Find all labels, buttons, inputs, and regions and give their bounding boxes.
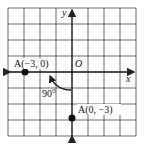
rotation-angle-label: 90°	[42, 88, 56, 99]
coordinate-plane: y x O A(−3, 0) A(0, −3) 90°	[0, 0, 144, 145]
y-axis-label: y	[61, 7, 67, 18]
point-a-original-label: A(−3, 0)	[14, 58, 49, 70]
origin-label: O	[75, 58, 82, 69]
x-axis-label: x	[125, 73, 131, 84]
point-a-rotated-label: A(0, −3)	[78, 104, 113, 116]
point-a-original	[22, 69, 29, 76]
point-a-rotated	[69, 115, 76, 122]
